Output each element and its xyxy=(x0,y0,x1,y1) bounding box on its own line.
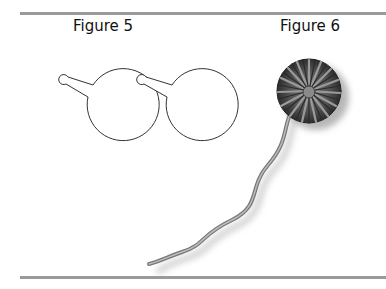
bottom-divider xyxy=(20,276,386,279)
rosette xyxy=(277,59,341,123)
figures-illustration xyxy=(0,0,386,289)
